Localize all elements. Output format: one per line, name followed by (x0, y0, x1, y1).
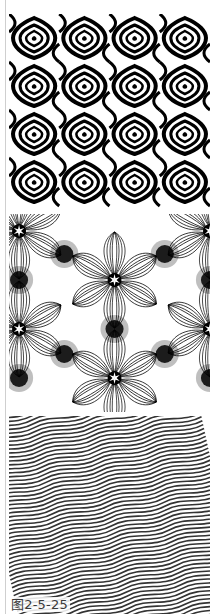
wave-stripes-graphic (9, 416, 210, 614)
page-margin-rule (5, 0, 6, 614)
pattern-panel-wave-stripes (9, 416, 210, 614)
star-lines-graphic (9, 214, 210, 412)
wavy-tiles-graphic (9, 14, 210, 208)
figure-caption: 图2-5-25 (9, 597, 70, 612)
pattern-panel-wavy-tiles (9, 14, 210, 208)
pattern-panel-star-lines (9, 214, 210, 412)
